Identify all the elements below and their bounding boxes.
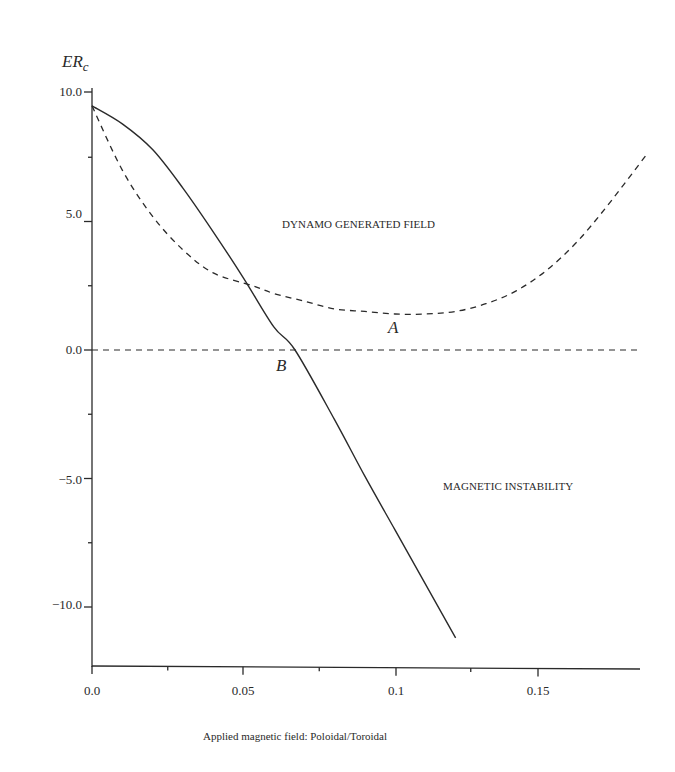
chart-canvas xyxy=(0,0,675,772)
x-tick-label: 0.05 xyxy=(218,683,268,699)
y-axis-title: ERc xyxy=(62,52,89,75)
axes xyxy=(84,88,640,676)
x-axis-title: Applied magnetic field: Poloidal/Toroida… xyxy=(203,730,387,742)
y-tick-label: 5.0 xyxy=(22,206,82,222)
x-axis-line xyxy=(92,666,640,669)
y-axis-ticks xyxy=(84,92,92,607)
y-axis-title-subscript: c xyxy=(83,59,89,74)
magnetic-instability-curve xyxy=(92,106,456,638)
y-tick-label: 10.0 xyxy=(22,84,82,100)
y-axis-title-main: ER xyxy=(62,52,83,71)
x-tick-label: 0.15 xyxy=(513,683,563,699)
y-tick-label: −10.0 xyxy=(22,597,82,613)
dynamo-field-curve xyxy=(92,106,646,314)
point-label-b: B xyxy=(276,356,286,376)
y-tick-label: 0.0 xyxy=(22,342,82,358)
point-label-a: A xyxy=(388,318,398,338)
x-tick-label: 0.0 xyxy=(67,683,117,699)
region-label-dynamo: DYNAMO GENERATED FIELD xyxy=(282,218,435,230)
region-label-instability: MAGNETIC INSTABILITY xyxy=(443,480,573,492)
x-tick-label: 0.1 xyxy=(371,683,421,699)
y-tick-label: −5.0 xyxy=(22,472,82,488)
